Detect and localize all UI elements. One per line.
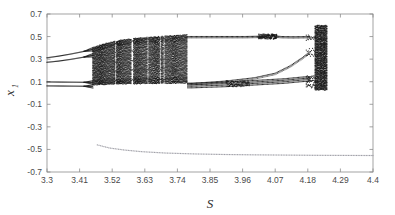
data-point <box>312 86 313 87</box>
data-point <box>130 71 131 72</box>
data-point <box>313 75 314 76</box>
data-point <box>253 37 254 38</box>
data-point <box>289 82 290 83</box>
data-point <box>327 155 328 156</box>
data-point <box>256 84 257 85</box>
data-point <box>254 84 255 85</box>
data-point <box>277 79 278 80</box>
data-point <box>312 48 313 49</box>
data-point <box>210 85 211 86</box>
data-point <box>68 86 69 87</box>
data-point <box>292 80 293 81</box>
data-point <box>306 55 307 56</box>
data-point <box>159 37 160 38</box>
data-point <box>286 79 287 80</box>
data-point <box>201 87 202 88</box>
data-point <box>206 84 207 85</box>
data-point <box>299 78 300 79</box>
data-point <box>308 54 309 55</box>
data-point <box>297 62 298 63</box>
data-point <box>226 36 227 37</box>
data-point <box>292 37 293 38</box>
data-point <box>195 36 196 37</box>
data-point <box>220 82 221 83</box>
data-point <box>286 83 287 84</box>
data-point <box>326 82 327 83</box>
data-point <box>232 37 233 38</box>
data-point <box>213 82 214 83</box>
data-point <box>82 57 83 58</box>
data-point <box>366 155 367 156</box>
data-point <box>228 86 229 87</box>
data-point <box>77 52 78 53</box>
data-point <box>254 83 255 84</box>
data-point <box>130 46 131 47</box>
data-point <box>231 37 232 38</box>
data-point <box>259 84 260 85</box>
data-point <box>257 154 258 155</box>
data-point <box>257 81 258 82</box>
data-point <box>266 79 267 80</box>
data-point <box>203 85 204 86</box>
data-point <box>263 154 264 155</box>
data-point <box>289 36 290 37</box>
data-point <box>258 78 259 79</box>
data-point <box>325 155 326 156</box>
data-point <box>278 154 279 155</box>
data-point <box>65 60 66 61</box>
data-point <box>252 85 253 86</box>
data-point <box>271 34 272 35</box>
data-point <box>312 37 313 38</box>
data-point <box>80 86 81 87</box>
data-point <box>192 84 193 85</box>
data-point <box>326 68 327 69</box>
data-point <box>203 82 204 83</box>
data-point <box>273 154 274 155</box>
data-point <box>288 37 289 38</box>
data-point <box>200 36 201 37</box>
data-point <box>221 83 222 84</box>
data-point <box>271 36 272 37</box>
y-tick-label: -0.5 <box>27 144 42 154</box>
data-point <box>146 75 147 76</box>
data-point <box>299 37 300 38</box>
data-point <box>235 86 236 87</box>
data-point <box>114 78 115 79</box>
data-point <box>326 79 327 80</box>
data-point <box>196 87 197 88</box>
data-point <box>229 154 230 155</box>
data-point <box>293 64 294 65</box>
data-point <box>279 81 280 82</box>
data-point <box>201 153 202 154</box>
data-point <box>266 154 267 155</box>
data-point <box>242 36 243 37</box>
data-point <box>114 47 115 48</box>
data-point <box>283 80 284 81</box>
data-point <box>233 37 234 38</box>
data-point <box>218 86 219 87</box>
data-point <box>215 82 216 83</box>
data-point <box>249 83 250 84</box>
data-point <box>190 37 191 38</box>
data-point <box>63 82 64 83</box>
data-point <box>159 54 160 55</box>
data-point <box>273 35 274 36</box>
data-point <box>340 155 341 156</box>
data-point <box>252 36 253 37</box>
data-point <box>249 79 250 80</box>
data-point <box>266 76 267 77</box>
data-point <box>54 56 55 57</box>
data-point <box>186 56 187 57</box>
data-point <box>114 60 115 61</box>
data-point <box>283 70 284 71</box>
data-point <box>261 154 262 155</box>
data-point <box>146 65 147 66</box>
data-point <box>70 82 71 83</box>
data-point <box>237 154 238 155</box>
data-point <box>271 79 272 80</box>
data-point <box>271 75 272 76</box>
data-point <box>130 74 131 75</box>
data-point <box>326 85 327 86</box>
data-point <box>336 155 337 156</box>
data-point <box>264 84 265 85</box>
